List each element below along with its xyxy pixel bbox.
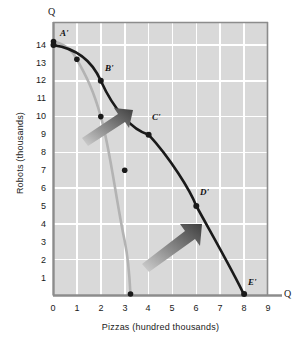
x-tick-2: 2 [94,303,108,313]
point-C-prime [146,132,152,138]
x-tick-9: 9 [261,303,275,313]
y-tick-6: 6 [28,183,46,193]
y-tick-13: 13 [28,58,46,68]
point-D-prime [193,203,199,209]
x-axis-end-label: Q [284,288,291,299]
x-tick-0: 0 [46,303,60,313]
y-tick-7: 7 [28,165,46,175]
label-D-prime: D' [200,187,209,197]
x-axis-title: Pizzas (hundred thousands) [53,322,268,332]
y-tick-3: 3 [28,237,46,247]
point-B-prime [98,78,104,84]
point-light-3 [122,167,128,173]
x-tick-1: 1 [70,303,84,313]
label-C-prime: C' [152,112,161,122]
y-axis-end-label: Q [48,6,55,17]
y-tick-5: 5 [28,201,46,211]
y-tick-11: 11 [28,93,46,103]
y-tick-8: 8 [28,147,46,157]
y-axis-title: Robots (thousands) [15,95,25,211]
point-E-prime [241,291,247,297]
x-tick-6: 6 [189,303,203,313]
y-tick-1: 1 [28,273,46,283]
point-light-2 [98,114,104,120]
ppf-chart-figure: Q Q 14 13 12 11 10 9 8 7 6 5 4 3 2 1 0 1… [0,0,299,342]
x-tick-5: 5 [165,303,179,313]
y-tick-10: 10 [28,111,46,121]
y-tick-2: 2 [28,255,46,265]
x-tick-7: 7 [213,303,227,313]
label-B-prime: B' [105,63,114,73]
y-tick-9: 9 [28,129,46,139]
point-A-prime [51,42,57,48]
point-light-4 [128,291,134,297]
x-tick-3: 3 [118,303,132,313]
x-tick-8: 8 [237,303,251,313]
label-E-prime: E' [248,277,257,287]
y-tick-14: 14 [28,40,46,50]
label-A-prime: A' [60,28,69,38]
point-light-1 [74,57,80,63]
y-tick-12: 12 [28,75,46,85]
x-tick-4: 4 [141,303,155,313]
y-tick-4: 4 [28,219,46,229]
